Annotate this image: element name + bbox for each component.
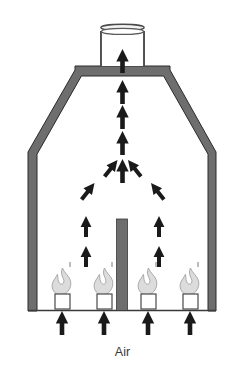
flame-2 <box>94 268 113 295</box>
flame-1 <box>52 268 71 295</box>
burner-2 <box>97 294 112 309</box>
air-inlet-arrow-1 <box>56 311 68 335</box>
air-inlet-arrow-group <box>56 311 196 335</box>
flame-3 <box>138 268 157 295</box>
flow-arrow-converge-left-outer <box>77 180 98 203</box>
flow-arrow-right-rise-upper <box>154 216 165 237</box>
burner-1 <box>55 294 70 309</box>
flow-arrow-vertical-4 <box>116 131 128 155</box>
flow-arrow-vertical-3 <box>116 105 128 129</box>
center-baffle <box>117 219 128 311</box>
flame-4 <box>180 268 199 295</box>
flow-arrow-converge-right-outer <box>147 180 168 203</box>
flow-arrow-right-rise-lower <box>154 246 165 267</box>
air-label: Air <box>115 345 130 359</box>
air-inlet-arrow-4 <box>184 311 196 335</box>
furnace-diagram-canvas: Air <box>0 0 245 371</box>
burner-3 <box>141 294 156 309</box>
air-inlet-arrow-3 <box>142 311 154 335</box>
furnace-diagram: Air <box>0 0 245 371</box>
flow-arrow-left-rise-upper <box>81 216 92 237</box>
air-inlet-arrow-2 <box>98 311 110 335</box>
flow-arrow-vertical-2 <box>116 80 128 104</box>
flow-arrow-left-rise-lower <box>81 246 92 267</box>
flame-spark-group <box>70 262 198 267</box>
burner-4 <box>183 294 198 309</box>
chimney-rim-inner-ellipse <box>102 28 144 34</box>
flow-arrow-vertical-5 <box>116 159 128 183</box>
